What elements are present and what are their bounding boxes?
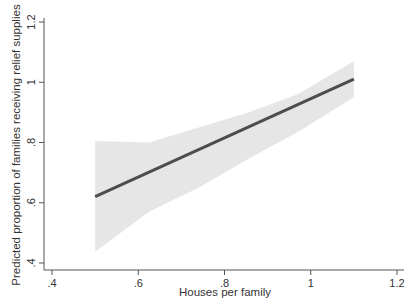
confidence-band: [95, 61, 354, 252]
y-tick-label: .4: [25, 258, 37, 267]
x-tick-label: .4: [47, 277, 56, 289]
fitted-line: [95, 79, 354, 196]
x-tick-label: 1.2: [389, 277, 404, 289]
prediction-line: [95, 79, 354, 196]
y-tick-label: 1.2: [25, 14, 37, 29]
ci-band-area: [95, 61, 354, 252]
chart: .4.6.811.2 .4.6.811.2 Houses per family …: [0, 0, 418, 305]
y-tick-label: .8: [25, 138, 37, 147]
y-tick-label: 1: [25, 79, 37, 85]
x-tick-label: 1: [308, 277, 314, 289]
y-tick-label: .6: [25, 198, 37, 207]
x-axis-title: Houses per family: [179, 286, 271, 298]
y-axis-ticks: .4.6.811.2: [25, 14, 44, 267]
x-tick-label: .6: [134, 277, 143, 289]
y-axis-title: Predicted proportion of families receivi…: [10, 4, 22, 286]
